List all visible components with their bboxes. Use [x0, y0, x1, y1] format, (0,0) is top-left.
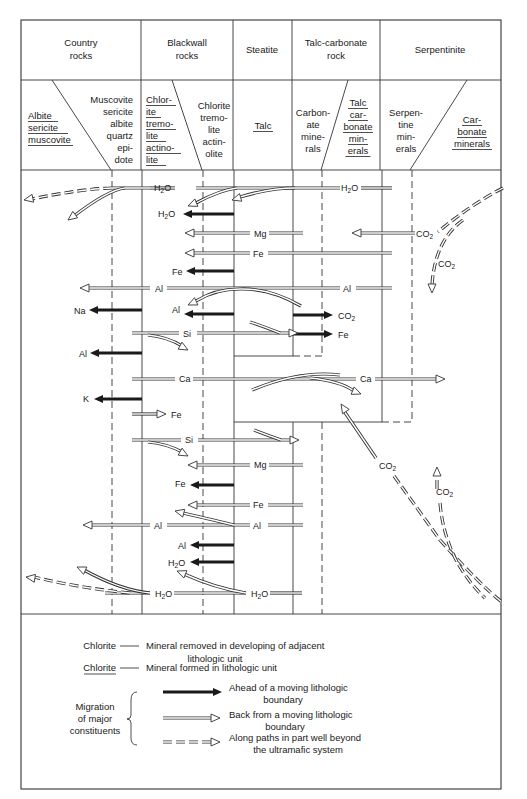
label-al-blackwall: Al — [172, 305, 180, 315]
h2o-dashed-far-left-head — [24, 194, 34, 202]
mineral-country-right-line: quartz — [107, 130, 134, 141]
ca-arrow-right — [375, 375, 445, 383]
label-h2o-blackwall: H2O — [158, 209, 175, 220]
zone-title-serpentinite: Serpentinite — [415, 44, 466, 55]
label-mg-bottom: Mg — [254, 460, 267, 470]
legend: Chlorite Mineral removed in developing o… — [70, 640, 361, 755]
legend-formed-desc: Mineral formed in lithologic unit — [146, 662, 277, 673]
mineral-talc-carb-right-line: min- — [349, 133, 367, 144]
element-labels: H2O H2O H2O Mg CO2 CO2 Fe Fe Al Al Na Al… — [74, 183, 456, 600]
mineral-serp-right-line: Car- — [463, 114, 481, 125]
al-arrow-bottom-left — [83, 521, 150, 529]
mineral-blackwall-left-line: lite — [146, 154, 158, 165]
mg-arrow-bottom — [188, 461, 250, 469]
h2o-curve-blackwall — [188, 188, 237, 206]
h2o-curve-steatite-head — [232, 194, 242, 202]
mineral-lists: AlbitesericitemuscoviteMuscovitesericite… — [28, 94, 492, 166]
legend-dashed-arrow — [163, 738, 220, 746]
label-co2-mid: CO2 — [379, 461, 397, 472]
label-h2o-bottom: H2O — [155, 589, 172, 600]
legend-ahead-1: Ahead of a moving lithologic — [229, 682, 348, 693]
mineral-country-left-line: Albite — [28, 110, 52, 121]
label-fe-bottom: Fe — [253, 500, 264, 510]
label-h2o-top-right: H2O — [341, 183, 358, 194]
si-curve-blackwall-2 — [148, 442, 188, 456]
co2-dashed-down-head — [428, 284, 436, 293]
blackwall-diagonal — [172, 80, 202, 170]
legend-arrow-samples — [163, 688, 222, 746]
legend-solid-arrow-head — [213, 688, 222, 696]
mineral-talc-carb-right-line: Talc — [350, 97, 367, 108]
mineral-blackwall-right-line: actin- — [202, 136, 225, 147]
legend-hollow-arrow-head — [211, 714, 220, 722]
h2o-curve-country — [68, 188, 125, 220]
si-curve-blackwall — [148, 335, 188, 350]
label-ca-right: Ca — [360, 374, 372, 384]
label-h2o-top: H2O — [154, 183, 171, 194]
mineral-talc-carb-left-line: Carbon- — [296, 107, 330, 118]
si-arrow-right — [197, 329, 298, 337]
mineral-serp-right-line: minerals — [454, 138, 490, 149]
na-solid-arrow-head — [89, 306, 98, 314]
h2o-solid-arrow-2-head — [190, 558, 199, 566]
fe-solid-arrow-right-head — [324, 330, 333, 338]
si-arrow-right-2 — [198, 436, 299, 444]
zone-title-talc-carbonate-2: rock — [327, 50, 345, 61]
mineral-country-right-line: Muscovite — [90, 94, 133, 105]
fe-arrow-bottom — [188, 501, 250, 509]
legend-removed-term: Chlorite — [83, 640, 116, 651]
mineral-blackwall-left-line: ite — [146, 106, 156, 117]
mineral-blackwall-right-line: Chlorite — [198, 100, 231, 111]
mineral-country-left-line: muscovite — [28, 134, 71, 145]
label-fe-steatite: Fe — [338, 330, 349, 340]
fe-country-arrow-head — [157, 410, 166, 418]
al-curve-bottom-head — [175, 509, 185, 517]
al-arrow-bottom-left-head — [83, 521, 92, 529]
mineral-talc-carb-left-line: mine- — [301, 131, 325, 142]
mineral-talc-carb-right-line: erals — [348, 145, 369, 156]
mineral-blackwall-left-line: lite — [146, 130, 158, 141]
si-arrow-right-head — [289, 329, 298, 337]
label-si-bottom: Si — [185, 435, 193, 445]
mineral-serp-left-line: tine — [398, 119, 413, 130]
h2o-solid-arrow-head — [183, 210, 192, 218]
fe-solid-arrow-head — [186, 267, 195, 275]
legend-migration-1: Migration — [75, 701, 114, 712]
mineral-talc-carb-left-line: rals — [305, 143, 321, 154]
mineral-country-left-line: sericite — [28, 122, 58, 133]
legend-back-2: boundary — [265, 721, 305, 732]
co2-solid-arrow-head — [324, 311, 333, 319]
label-ca: Ca — [179, 374, 191, 384]
mineral-talc-carb-right-line: car- — [350, 109, 366, 120]
mineral-blackwall-left-line: actino- — [146, 142, 175, 153]
al-country-solid-arrow-head — [90, 349, 99, 357]
h2o-bottom-curve-blackwall — [177, 571, 246, 593]
mineral-country-right-line: albite — [110, 118, 133, 129]
legend-dashed-arrow-head — [211, 738, 220, 746]
si-curve-steatite — [250, 322, 280, 333]
label-co2-serp: CO2 — [416, 229, 434, 240]
label-co2-steatite: CO2 — [338, 311, 356, 322]
label-h2o-blackwall-2: H2O — [168, 558, 185, 569]
fe-arrow — [185, 249, 250, 257]
label-fe-blackwall-2: Fe — [175, 479, 186, 489]
label-fe-country: Fe — [171, 410, 182, 420]
label-h2o-bottom-right: H2O — [251, 589, 268, 600]
zone-title-country-1: Country — [64, 37, 98, 48]
si-arrow-right-2-head — [290, 436, 299, 444]
mg-arrow-bottom-head — [188, 461, 197, 469]
al-solid-arrow-head — [184, 310, 193, 318]
mineral-blackwall-left-line: Chlor- — [146, 94, 172, 105]
legend-along-2: the ultramafic system — [253, 744, 343, 755]
al-curve-bottom — [175, 509, 234, 525]
zone-titles: Country rocks Blackwall rocks Steatite T… — [64, 37, 465, 61]
zone-title-steatite: Steatite — [246, 44, 278, 55]
co2-dashed-down — [428, 220, 463, 293]
mineral-country-right-line: dote — [115, 154, 134, 165]
legend-formed-term: Chlorite — [83, 662, 116, 673]
mineral-serp-left-line: erals — [396, 143, 417, 154]
al-arrow-left — [80, 284, 150, 292]
co2-up-small-head — [433, 467, 441, 476]
h2o-bottom-dashed-far-head — [26, 574, 35, 582]
legend-ahead-2: boundary — [263, 694, 303, 705]
